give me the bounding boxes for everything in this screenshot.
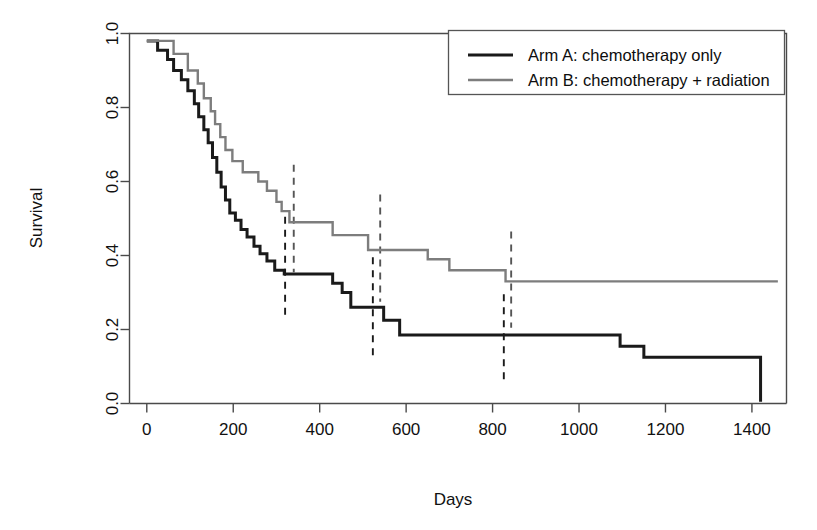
- x-axis-title: Days: [434, 490, 473, 509]
- survival-chart: 0200400600800100012001400 0.00.20.40.60.…: [0, 0, 817, 530]
- x-tick-label: 800: [478, 420, 506, 439]
- x-tick-label: 0: [142, 420, 151, 439]
- y-tick-label: 0.6: [103, 170, 122, 194]
- y-axis-title: Survival: [27, 188, 46, 248]
- y-tick-label: 0.0: [103, 392, 122, 416]
- legend-label-arm-b: Arm B: chemotherapy + radiation: [528, 71, 770, 89]
- x-tick-label: 1000: [560, 420, 598, 439]
- x-tick-label: 200: [219, 420, 247, 439]
- y-tick-label: 1.0: [103, 22, 122, 46]
- x-tick-label: 600: [392, 420, 420, 439]
- x-tick-label: 1200: [647, 420, 685, 439]
- y-tick-label: 0.4: [103, 244, 122, 268]
- x-tick-label: 1400: [733, 420, 771, 439]
- x-axis-ticks: 0200400600800100012001400: [142, 404, 771, 439]
- y-tick-label: 0.2: [103, 318, 122, 342]
- y-axis-ticks: 0.00.20.40.60.81.0: [103, 22, 130, 416]
- x-tick-label: 400: [305, 420, 333, 439]
- legend-label-arm-a: Arm A: chemotherapy only: [528, 46, 722, 64]
- legend: Arm A: chemotherapy onlyArm B: chemother…: [449, 31, 785, 95]
- y-tick-label: 0.8: [103, 96, 122, 120]
- kaplan-meier-plot: 0200400600800100012001400 0.00.20.40.60.…: [0, 0, 817, 530]
